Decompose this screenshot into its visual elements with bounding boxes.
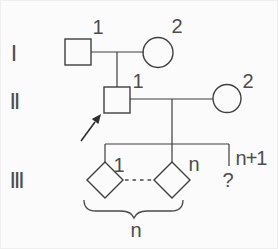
generation-label-3: Ⅲ	[9, 168, 24, 193]
proband-arrow-icon	[81, 114, 101, 141]
individual-I-1-male-square	[65, 39, 91, 65]
individual-II-1-male-square	[104, 87, 130, 113]
individual-label-I-1: 1	[92, 16, 103, 38]
individual-I-2-affected-female-circle	[143, 38, 173, 68]
individual-III-n-diamond	[154, 162, 190, 198]
individual-label-II-1: 1	[132, 70, 143, 92]
generation-label-1: Ⅰ	[11, 41, 18, 66]
individual-label-III-1: 1	[113, 154, 124, 176]
unknown-individual-question-mark: ?	[222, 169, 233, 191]
sibling-count-brace	[84, 200, 183, 218]
individual-label-II-2: 2	[242, 70, 253, 92]
individual-II-2-female-circle	[213, 85, 241, 113]
individual-label-I-2: 2	[171, 15, 182, 37]
label-n-plus-1: n+1	[236, 147, 268, 169]
pedigree-svg: Ⅰ Ⅱ Ⅲ 1 2 1 2 1 n n+1	[1, 1, 278, 249]
pedigree-diagram: Ⅰ Ⅱ Ⅲ 1 2 1 2 1 n n+1	[0, 0, 278, 249]
brace-count-label: n	[130, 219, 141, 241]
generation-label-2: Ⅱ	[10, 89, 21, 114]
individual-label-III-n: n	[188, 153, 199, 175]
